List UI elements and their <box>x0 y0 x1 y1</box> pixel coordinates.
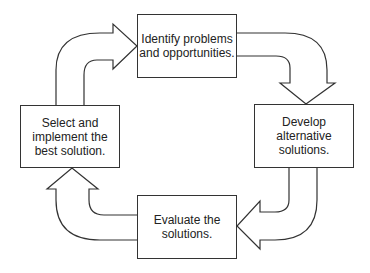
arrow-identify-to-develop <box>237 33 335 104</box>
step-identify-box: Identify problems and opportunities. <box>137 14 237 78</box>
arrow-develop-to-evaluate <box>237 168 317 249</box>
step-evaluate-box: Evaluate the solutions. <box>137 195 237 259</box>
step-develop-label: Develop alternative solutions. <box>276 115 331 157</box>
arrow-select-to-identify <box>56 24 137 105</box>
step-identify-label: Identify problems and opportunities. <box>139 32 234 60</box>
step-select-box: Select and implement the best solution. <box>20 105 120 168</box>
step-develop-box: Develop alternative solutions. <box>254 104 354 168</box>
arrow-evaluate-to-select <box>47 168 137 240</box>
step-select-label: Select and implement the best solution. <box>32 116 107 158</box>
step-evaluate-label: Evaluate the solutions. <box>154 213 221 241</box>
